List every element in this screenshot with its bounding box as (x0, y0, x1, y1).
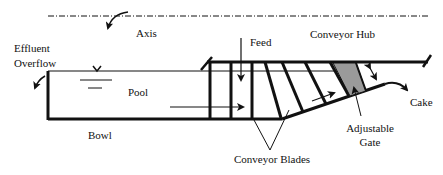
effluent-label-line2: Overflow (14, 57, 56, 69)
feed-label: Feed (250, 36, 271, 48)
effluent-label-line1: Effluent (14, 42, 50, 54)
conveyor-blades-pointer (254, 110, 289, 150)
liquid-level-icon (80, 66, 112, 88)
conveyor-hub-label: Conveyor Hub (310, 28, 375, 40)
effluent-arrow-icon (35, 76, 45, 88)
adjustable-gate-label-line2: Gate (340, 136, 400, 148)
axis-label: Axis (136, 27, 157, 39)
rotation-arrow-icon (108, 12, 128, 28)
pool-label: Pool (128, 86, 148, 98)
conveyor-blades-label: Conveyor Blades (234, 153, 310, 165)
gate-adjust-arrow-icon (370, 68, 376, 79)
bowl-wall (48, 71, 385, 120)
cake-label: Cake (410, 96, 433, 108)
centrifuge-diagram (0, 0, 443, 175)
adjustable-gate-label-line1: Adjustable (340, 122, 400, 134)
bowl-label: Bowl (88, 129, 112, 141)
cake-arrow-icon (385, 83, 407, 90)
